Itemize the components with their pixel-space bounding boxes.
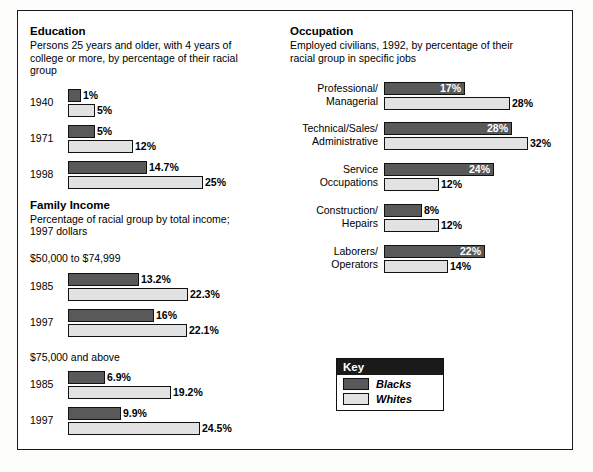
axis-label-line2: Occupations [290, 176, 378, 189]
bar-blacks-income2-1997: 9.9% [68, 407, 121, 420]
bar-blacks-education-1940: 1% [68, 89, 81, 102]
value-label-blacks-occupation-laborers: 22% [460, 245, 481, 257]
bar-blacks-education-1998: 14.7% [68, 161, 147, 174]
bar-pair-education-1971: 1971 5% 12% [30, 125, 288, 161]
bar-blacks-income2-1985: 6.9% [68, 371, 105, 384]
bar-whites-income2-1985: 19.2% [68, 386, 171, 399]
bar-pair-income1-1985: 1985 13.2% 22.3% [30, 273, 288, 309]
family-income-title: Family Income [30, 199, 288, 211]
axis-label-income1-1985: 1985 [30, 280, 64, 292]
axis-label-education-1940: 1940 [30, 96, 64, 108]
occupation-title: Occupation [290, 25, 560, 37]
axis-label-line2: Administrative [290, 135, 378, 148]
value-label-whites-occupation-construction: 12% [441, 219, 462, 231]
bar-pair-education-1998: 1998 14.7% 25% [30, 161, 288, 197]
education-subtitle: Persons 25 years and older, with 4 years… [30, 39, 245, 77]
bar-whites-occupation-technical: 32% [384, 137, 528, 150]
axis-label-occupation-technical: Technical/Sales/ Administrative [290, 122, 378, 147]
right-column: Occupation Employed civilians, 1992, by … [290, 25, 560, 284]
bar-whites-income1-1997: 22.1% [68, 324, 187, 337]
bar-pair-income1-1997: 1997 16% 22.1% [30, 309, 288, 345]
axis-label-line1: Laborers/ [290, 245, 378, 258]
axis-label-line1: Construction/ [290, 204, 378, 217]
bar-blacks-occupation-technical: 28% [384, 122, 512, 135]
value-label-blacks-education-1971: 5% [97, 125, 112, 137]
bar-pair-occupation-construction: Construction/ Hepairs 8% 12% [290, 202, 560, 243]
value-label-whites-education-1998: 25% [205, 176, 226, 188]
bar-blacks-income1-1985: 13.2% [68, 273, 139, 286]
value-label-blacks-income1-1985: 13.2% [141, 273, 171, 285]
axis-label-line1: Professional/ [290, 82, 378, 95]
education-title: Education [30, 25, 288, 37]
bar-blacks-occupation-professional: 17% [384, 82, 465, 95]
axis-label-income2-1985: 1985 [30, 378, 64, 390]
legend-label-blacks: Blacks [376, 378, 411, 390]
legend-swatch-blacks [343, 378, 369, 390]
value-label-blacks-income2-1985: 6.9% [107, 371, 131, 383]
legend: Key Blacks Whites [336, 358, 444, 411]
axis-label-occupation-service: Service Occupations [290, 163, 378, 188]
bar-pair-occupation-laborers: Laborers/ Operators 22% 14% [290, 243, 560, 284]
axis-label-occupation-professional: Professional/ Managerial [290, 82, 378, 107]
chart-frame: Education Persons 25 years and older, wi… [17, 10, 573, 450]
value-label-whites-income1-1997: 22.1% [189, 324, 219, 336]
bar-whites-occupation-service: 12% [384, 178, 439, 191]
value-label-blacks-occupation-service: 24% [469, 163, 490, 175]
bar-blacks-education-1971: 5% [68, 125, 95, 138]
value-label-whites-education-1940: 5% [97, 104, 112, 116]
legend-swatch-whites [343, 393, 369, 405]
value-label-whites-occupation-professional: 28% [512, 97, 533, 109]
education-section: Education Persons 25 years and older, wi… [30, 25, 288, 197]
bar-whites-education-1998: 25% [68, 176, 203, 189]
legend-item-blacks: Blacks [337, 375, 443, 393]
axis-label-line1: Service [290, 163, 378, 176]
bar-whites-income1-1985: 22.3% [68, 288, 188, 301]
axis-label-occupation-laborers: Laborers/ Operators [290, 245, 378, 270]
legend-item-whites: Whites [337, 393, 443, 410]
bar-whites-income2-1997: 24.5% [68, 422, 200, 435]
value-label-blacks-income1-1997: 16% [156, 309, 177, 321]
bar-whites-education-1971: 12% [68, 140, 133, 153]
bar-blacks-occupation-construction: 8% [384, 204, 422, 217]
axis-label-line2: Operators [290, 258, 378, 271]
axis-label-line1: Technical/Sales/ [290, 122, 378, 135]
axis-label-occupation-construction: Construction/ Hepairs [290, 204, 378, 229]
value-label-blacks-occupation-construction: 8% [424, 204, 439, 216]
family-income-group1-label: $50,000 to $74,999 [30, 252, 288, 265]
bar-blacks-income1-1997: 16% [68, 309, 154, 322]
axis-label-line2: Hepairs [290, 217, 378, 230]
bar-whites-occupation-professional: 28% [384, 97, 510, 110]
value-label-blacks-education-1998: 14.7% [149, 161, 179, 173]
value-label-whites-income2-1985: 19.2% [173, 386, 203, 398]
bar-pair-education-1940: 1940 1% 5% [30, 89, 288, 125]
value-label-whites-education-1971: 12% [135, 140, 156, 152]
bar-blacks-occupation-laborers: 22% [384, 245, 485, 258]
value-label-whites-income1-1985: 22.3% [190, 288, 220, 300]
bar-whites-education-1940: 5% [68, 104, 95, 117]
bar-pair-income2-1997: 1997 9.9% 24.5% [30, 407, 288, 443]
value-label-whites-income2-1997: 24.5% [202, 422, 232, 434]
legend-label-whites: Whites [376, 393, 412, 405]
axis-label-education-1998: 1998 [30, 168, 64, 180]
family-income-group2-label: $75,000 and above [30, 351, 288, 364]
bar-pair-occupation-professional: Professional/ Managerial 17% 28% [290, 80, 560, 120]
bar-pair-income2-1985: 1985 6.9% 19.2% [30, 371, 288, 407]
bar-whites-occupation-laborers: 14% [384, 260, 448, 273]
axis-label-income2-1997: 1997 [30, 414, 64, 426]
occupation-subtitle: Employed civilians, 1992, by percentage … [290, 39, 525, 64]
family-income-section: Family Income Percentage of racial group… [30, 199, 288, 443]
value-label-whites-occupation-service: 12% [441, 178, 462, 190]
family-income-subtitle: Percentage of racial group by total inco… [30, 213, 240, 238]
value-label-blacks-occupation-technical: 28% [487, 122, 508, 134]
value-label-whites-occupation-laborers: 14% [450, 260, 471, 272]
bar-pair-occupation-service: Service Occupations 24% 12% [290, 161, 560, 202]
value-label-blacks-income2-1997: 9.9% [123, 407, 147, 419]
value-label-blacks-education-1940: 1% [83, 89, 98, 101]
value-label-blacks-occupation-professional: 17% [440, 82, 461, 94]
value-label-whites-occupation-technical: 32% [530, 137, 551, 149]
bar-whites-occupation-construction: 12% [384, 219, 439, 232]
axis-label-education-1971: 1971 [30, 132, 64, 144]
left-column: Education Persons 25 years and older, wi… [30, 25, 288, 443]
axis-label-income1-1997: 1997 [30, 316, 64, 328]
bar-blacks-occupation-service: 24% [384, 163, 494, 176]
